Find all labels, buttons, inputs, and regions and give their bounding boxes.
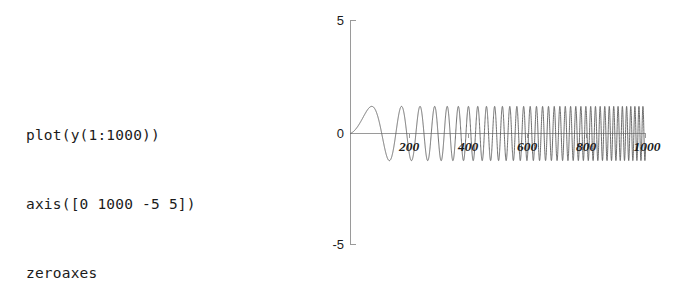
y-tick-label-minus5: -5: [332, 237, 344, 252]
code-listing: plot(y(1:1000)) axis([0 1000 -5 5]) zero…: [26, 78, 196, 282]
chirp-plot: 5 0 -5 200 400 600 800 1000: [300, 0, 676, 267]
code-line-2: axis([0 1000 -5 5]): [26, 193, 196, 216]
x-tick-label-600: 600: [517, 139, 538, 154]
code-line-3: zeroaxes: [26, 262, 196, 282]
plot-panel: 5 0 -5 200 400 600 800 1000: [300, 0, 676, 267]
y-tick-label-0: 0: [337, 126, 344, 141]
code-line-1: plot(y(1:1000)): [26, 124, 196, 147]
y-tick-label-5: 5: [337, 13, 344, 28]
x-tick-label-800: 800: [576, 139, 597, 154]
x-tick-label-200: 200: [398, 139, 420, 154]
x-tick-label-400: 400: [457, 139, 479, 154]
x-tick-label-1000: 1000: [634, 139, 661, 154]
